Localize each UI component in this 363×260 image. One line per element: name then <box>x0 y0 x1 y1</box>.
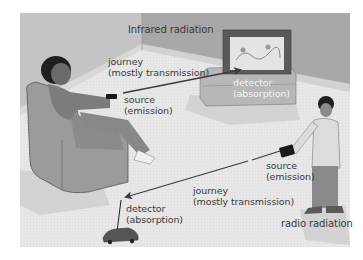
radiation-illustration: Infrared radiation journey (mostly trans… <box>0 0 363 260</box>
radio-radiation-title: radio radiation <box>281 218 353 229</box>
tv-screen <box>230 37 284 70</box>
infrared-detector-label: detector (absorption) <box>233 77 290 99</box>
infrared-source-label: source (emission) <box>124 94 173 116</box>
tv-remote-icon <box>106 94 117 99</box>
radio-journey-label: journey (mostly transmission) <box>193 185 294 207</box>
infrared-radiation-title: Infrared radiation <box>128 24 213 35</box>
radio-source-label: source (emission) <box>266 160 315 182</box>
radio-detector-label: detector (absorption) <box>126 203 183 225</box>
infrared-journey-label: journey (mostly transmission) <box>108 56 209 78</box>
